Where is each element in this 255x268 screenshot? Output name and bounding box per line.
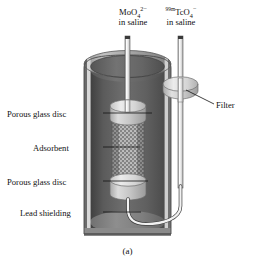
inlet-label: MoO42− in saline: [110, 7, 156, 27]
inlet-saline-text: in saline: [119, 17, 148, 27]
outlet-saline-text: in saline: [167, 17, 196, 27]
diagram-canvas: [0, 0, 255, 268]
label-adsorbent: Adsorbent: [33, 143, 69, 153]
inlet-formula: MoO42−: [119, 7, 147, 17]
label-porous-glass-disc-top: Porous glass disc: [7, 109, 66, 119]
figure-caption: (a): [0, 246, 255, 256]
label-lead-shielding: Lead shielding: [20, 208, 71, 218]
outlet-tube: [178, 36, 183, 188]
label-filter: Filter: [216, 100, 235, 110]
generator-diagram: MoO42− in saline 99mTcO4− in saline Poro…: [0, 0, 255, 268]
label-porous-glass-disc-bottom: Porous glass disc: [7, 177, 66, 187]
outlet-formula: 99mTcO4−: [166, 7, 197, 17]
porous-glass-disc-bottom: [110, 174, 146, 200]
porous-glass-disc-top: [110, 100, 146, 125]
outlet-label: 99mTcO4− in saline: [157, 7, 205, 27]
